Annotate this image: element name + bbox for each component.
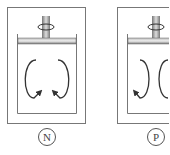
flow-arrow-left: [25, 60, 40, 98]
shaft-icon: [42, 16, 50, 40]
impeller-plate: [128, 38, 169, 44]
label-p: P: [147, 128, 165, 146]
impeller-plate: [18, 38, 76, 44]
flow-arrow-right: [159, 60, 168, 98]
shaft-icon: [152, 16, 160, 40]
panel-n: [8, 8, 86, 124]
flow-arrow-right: [54, 60, 69, 98]
diagram: [0, 0, 169, 155]
flow-arrow-left: [135, 60, 149, 98]
panel-p: [118, 8, 170, 124]
label-n: N: [38, 128, 56, 146]
